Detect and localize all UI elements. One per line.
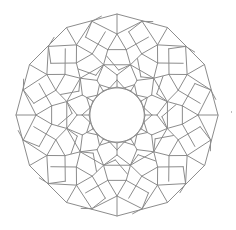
pattern-segment xyxy=(76,167,92,176)
pattern-segment xyxy=(178,90,200,103)
pattern-segment xyxy=(180,184,186,193)
pattern-segment xyxy=(77,176,93,185)
pattern-segment xyxy=(182,124,195,146)
pattern-segment xyxy=(158,28,168,45)
pattern-segment xyxy=(117,142,124,150)
pattern-segment xyxy=(82,108,90,115)
pattern-segment xyxy=(80,135,82,152)
pattern-segment xyxy=(167,124,182,128)
pattern-segment xyxy=(186,46,195,52)
pattern-segment xyxy=(77,45,93,54)
pattern-segment xyxy=(142,54,158,63)
pattern-segment xyxy=(187,75,211,90)
pattern-segment xyxy=(92,165,103,176)
pattern-segment xyxy=(80,78,82,95)
pattern-segment xyxy=(39,124,52,146)
stray-dot-mark xyxy=(231,111,232,113)
pattern-segment xyxy=(167,128,178,139)
pattern-segment xyxy=(158,45,186,47)
pattern-segment xyxy=(110,142,117,150)
pattern-segment xyxy=(23,75,47,90)
pattern-segment xyxy=(86,37,108,50)
pattern-segment xyxy=(48,184,76,186)
pattern-segment xyxy=(77,185,92,209)
pattern-segment xyxy=(178,75,187,91)
pattern-segment xyxy=(108,34,117,50)
pattern-segment xyxy=(30,156,47,166)
pattern-segment xyxy=(65,74,80,78)
pattern-segment xyxy=(144,115,152,122)
pattern-segment xyxy=(52,102,67,106)
pattern-segment xyxy=(56,128,67,139)
pattern-segment xyxy=(152,78,154,95)
outer-dodecagon-outline xyxy=(16,14,218,216)
pattern-segment xyxy=(178,140,187,156)
pattern-segment xyxy=(110,80,117,88)
pattern-segment xyxy=(39,178,48,184)
pattern-segment xyxy=(142,167,158,176)
pattern-segment xyxy=(158,184,186,186)
pattern-segment xyxy=(104,165,108,180)
pattern-segment xyxy=(154,152,158,167)
pattern-segment xyxy=(186,156,188,184)
pattern-segment xyxy=(142,21,157,45)
outer-dodecagon xyxy=(16,14,218,216)
pattern-segment xyxy=(158,185,168,202)
pattern-segment xyxy=(137,150,154,152)
pattern-segment xyxy=(47,75,56,91)
pattern-segment xyxy=(67,185,77,202)
pattern-segment xyxy=(117,21,142,34)
pattern-segment xyxy=(126,37,148,50)
pattern-segment xyxy=(144,108,152,115)
pattern-segment xyxy=(142,185,157,209)
pattern-segment xyxy=(47,46,49,74)
pattern-segment xyxy=(23,115,36,140)
pattern-segment xyxy=(92,32,105,54)
pattern-segment xyxy=(138,59,141,77)
pattern-segment xyxy=(76,63,80,78)
pattern-segment xyxy=(129,32,142,54)
pattern-segment xyxy=(23,140,47,155)
pattern-segment xyxy=(154,63,158,78)
pattern-segment xyxy=(67,28,77,45)
pattern-segment xyxy=(34,90,56,103)
pattern-segment xyxy=(169,74,178,90)
pattern-segment xyxy=(56,140,65,156)
pattern-segment xyxy=(126,50,130,65)
pattern-segment xyxy=(154,152,169,156)
pattern-segment xyxy=(47,140,56,156)
pattern-segment xyxy=(36,115,52,124)
pattern-segment xyxy=(117,80,124,88)
pattern-segment xyxy=(155,136,173,139)
pattern-segment xyxy=(186,46,188,74)
pattern-segment xyxy=(47,156,49,184)
pattern-segment xyxy=(86,180,108,193)
pattern-segment xyxy=(30,65,47,75)
pattern-segment xyxy=(187,140,211,155)
pattern-segment xyxy=(80,78,97,80)
pattern-segment xyxy=(92,176,105,198)
pattern-segment xyxy=(129,176,142,198)
pattern-segment xyxy=(48,45,76,47)
pattern-segment xyxy=(182,106,198,115)
pattern-segment xyxy=(34,127,56,140)
pattern-segment xyxy=(198,115,211,140)
pattern-segment xyxy=(56,90,67,101)
pattern-segment xyxy=(154,74,169,78)
pattern-segment xyxy=(117,34,126,50)
pattern-segment xyxy=(56,74,65,90)
pattern-segment xyxy=(169,140,178,156)
pattern-segment xyxy=(65,152,80,156)
pattern-segment xyxy=(61,91,79,94)
pattern-segment xyxy=(126,180,148,193)
pattern-segment xyxy=(130,165,141,176)
pattern-segment xyxy=(76,152,80,167)
pattern-segment xyxy=(39,84,52,106)
pattern-segment xyxy=(167,90,178,101)
pattern-segment xyxy=(117,180,126,196)
sector-motifs xyxy=(16,14,218,216)
pattern-segment xyxy=(182,84,195,106)
pattern-segment xyxy=(108,180,117,196)
pattern-segment xyxy=(137,78,154,80)
pattern-segment xyxy=(92,21,117,34)
